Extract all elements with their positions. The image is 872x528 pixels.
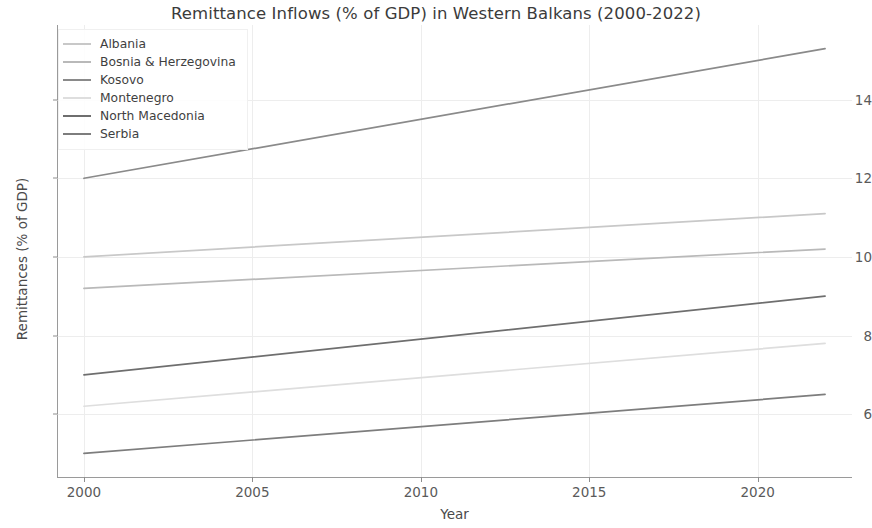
legend-item[interactable]: Serbia [63, 125, 239, 143]
x-tick-label: 2020 [723, 484, 793, 500]
y-tick-label: 8 [832, 328, 872, 344]
x-tick-mark [421, 477, 422, 482]
x-tick-mark [758, 477, 759, 482]
y-tick-label: 10 [832, 249, 872, 265]
chart-title: Remittance Inflows (% of GDP) in Western… [0, 4, 872, 23]
legend-item[interactable]: Kosovo [63, 71, 239, 89]
x-tick-label: 2015 [554, 484, 624, 500]
legend-item-label: Bosnia & Herzegovina [100, 55, 236, 69]
y-tick-mark [53, 256, 58, 257]
legend-item-label: North Macedonia [100, 109, 205, 123]
legend-item-label: Kosovo [100, 73, 144, 87]
y-tick-label: 12 [832, 170, 872, 186]
y-tick-mark [53, 335, 58, 336]
legend-line-swatch [63, 43, 91, 45]
chart-page: Remittance Inflows (% of GDP) in Western… [0, 0, 872, 528]
y-tick-label: 14 [832, 92, 872, 108]
x-axis-spine [57, 477, 852, 478]
x-tick-mark [84, 477, 85, 482]
y-tick-mark [53, 414, 58, 415]
series-line [84, 394, 825, 453]
x-tick-label: 2005 [217, 484, 287, 500]
legend-line-swatch [63, 61, 91, 63]
legend-item-label: Albania [100, 37, 146, 51]
x-tick-mark [589, 477, 590, 482]
legend-line-swatch [63, 97, 91, 99]
series-line [84, 249, 825, 288]
legend-line-swatch [63, 79, 91, 81]
legend-item[interactable]: Montenegro [63, 89, 239, 107]
legend-item[interactable]: Albania [63, 35, 239, 53]
legend-item[interactable]: Bosnia & Herzegovina [63, 53, 239, 71]
x-tick-label: 2010 [386, 484, 456, 500]
chart-legend: AlbaniaBosnia & HerzegovinaKosovoMontene… [58, 29, 248, 150]
y-tick-label: 6 [832, 406, 872, 422]
series-line [84, 343, 825, 406]
y-axis-label: Remittances (% of GDP) [14, 49, 30, 469]
y-tick-mark [53, 178, 58, 179]
series-line [84, 296, 825, 375]
legend-item-label: Serbia [100, 127, 139, 141]
series-line [84, 214, 825, 257]
legend-item-label: Montenegro [100, 91, 174, 105]
x-axis-label: Year [57, 506, 852, 522]
x-tick-mark [252, 477, 253, 482]
legend-line-swatch [63, 115, 91, 117]
legend-item[interactable]: North Macedonia [63, 107, 239, 125]
x-tick-label: 2000 [49, 484, 119, 500]
legend-line-swatch [63, 133, 91, 135]
